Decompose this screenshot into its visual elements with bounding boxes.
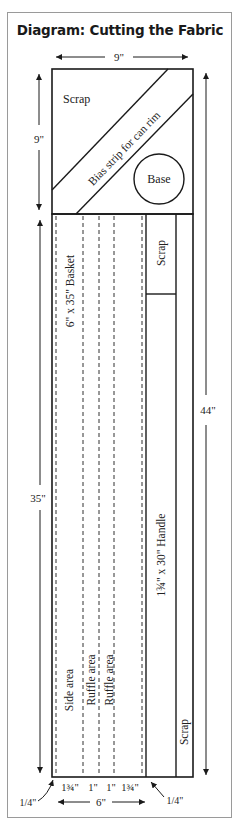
top-width-dimension: 9" — [56, 51, 188, 63]
bottom-width-dimension: 6" — [58, 796, 145, 808]
lower-height-dimension: 35" — [30, 220, 46, 773]
lower-height-label: 35" — [30, 492, 46, 504]
top-width-label: 9" — [114, 51, 124, 63]
side-area-label: Side area — [63, 669, 75, 711]
seam-left-label: 1/4" — [20, 797, 37, 808]
total-height-label: 44" — [200, 404, 216, 416]
cutting-diagram: 9" 9" 35" 44" Scrap Bias strip for can r… — [0, 0, 240, 825]
measure-side: 1¾" — [61, 782, 78, 793]
seam-right-label: 1/4" — [167, 795, 184, 806]
basket-label: 6" x 35" Basket — [64, 254, 76, 327]
ruffle-area-1-label: Ruffle area — [85, 654, 97, 705]
measure-ruffle-2: 1" — [106, 782, 116, 793]
top-height-dimension: 9" — [34, 74, 44, 210]
seam-right: 1/4" — [151, 782, 183, 806]
lower-rectangle: 6" x 35" Basket Scrap 1¾" x 30" Handle S… — [52, 214, 193, 777]
total-height-dimension: 44" — [200, 73, 216, 775]
scrap-top-label: Scrap — [63, 92, 90, 106]
top-square: Scrap Bias strip for can rim Base — [52, 69, 193, 214]
handle-label: 1¾" x 30" Handle — [155, 514, 167, 597]
seam-left: 1/4" — [20, 780, 53, 808]
ruffle-area-2-label: Ruffle area — [103, 654, 115, 705]
bottom-measurements: 1¾" 1" 1" 1¾" — [61, 782, 138, 793]
scrap-small-label: Scrap — [155, 240, 168, 266]
scrap-long-label: Scrap — [178, 719, 191, 745]
measure-side-2: 1¾" — [121, 782, 138, 793]
top-height-label: 9" — [34, 133, 44, 145]
measure-ruffle-1: 1" — [88, 782, 98, 793]
bottom-width-label: 6" — [96, 796, 106, 808]
base-label: Base — [147, 172, 170, 186]
